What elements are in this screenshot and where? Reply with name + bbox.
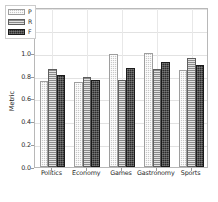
bar-f-politics xyxy=(57,75,66,167)
bar-p-gastronomy xyxy=(144,53,153,167)
legend-swatch-r xyxy=(8,19,25,25)
legend-label-p: P xyxy=(28,9,32,15)
legend-item-p: P xyxy=(8,8,32,16)
legend-item-r: R xyxy=(8,18,32,26)
legend-swatch-p xyxy=(8,9,25,15)
y-tick-label: 1.0 xyxy=(3,51,31,57)
legend: PRF xyxy=(5,5,36,39)
x-tick-mark xyxy=(191,168,192,171)
x-tick-mark xyxy=(156,168,157,171)
bar-f-economy xyxy=(91,80,100,167)
bar-r-games xyxy=(118,80,127,167)
gridline-horizontal xyxy=(35,32,207,33)
y-tick-label: 0.6 xyxy=(3,96,31,102)
bar-p-sports xyxy=(179,70,188,167)
bar-r-sports xyxy=(187,58,196,167)
x-tick-mark xyxy=(86,168,87,171)
x-axis-tick-labels: PoliticsEconomyGamesGastronomySports xyxy=(34,170,208,184)
legend-swatch-f xyxy=(8,29,25,35)
bar-p-economy xyxy=(74,82,83,167)
plot-area xyxy=(34,8,208,168)
bar-chart-figure: Metric 0.00.20.40.60.81.01.21.4 Politics… xyxy=(0,0,218,202)
bar-r-gastronomy xyxy=(153,69,162,167)
bar-r-economy xyxy=(83,77,92,167)
gridline-horizontal xyxy=(35,9,207,10)
y-tick-label: 0.4 xyxy=(3,119,31,125)
y-tick-label: 0.0 xyxy=(3,165,31,171)
x-tick-mark xyxy=(121,168,122,171)
legend-item-f: F xyxy=(8,28,32,36)
bar-p-games xyxy=(109,54,118,167)
bar-r-politics xyxy=(48,69,57,167)
gridline-horizontal xyxy=(35,55,207,56)
bar-p-politics xyxy=(40,81,49,167)
bar-f-gastronomy xyxy=(161,62,170,167)
y-tick-label: 0.8 xyxy=(3,73,31,79)
x-tick-mark xyxy=(51,168,52,171)
legend-label-f: F xyxy=(28,29,32,35)
y-tick-label: 0.2 xyxy=(3,142,31,148)
y-tick-mark xyxy=(31,168,34,169)
bar-f-sports xyxy=(196,65,205,167)
legend-label-r: R xyxy=(28,19,32,25)
bar-f-games xyxy=(126,68,135,167)
